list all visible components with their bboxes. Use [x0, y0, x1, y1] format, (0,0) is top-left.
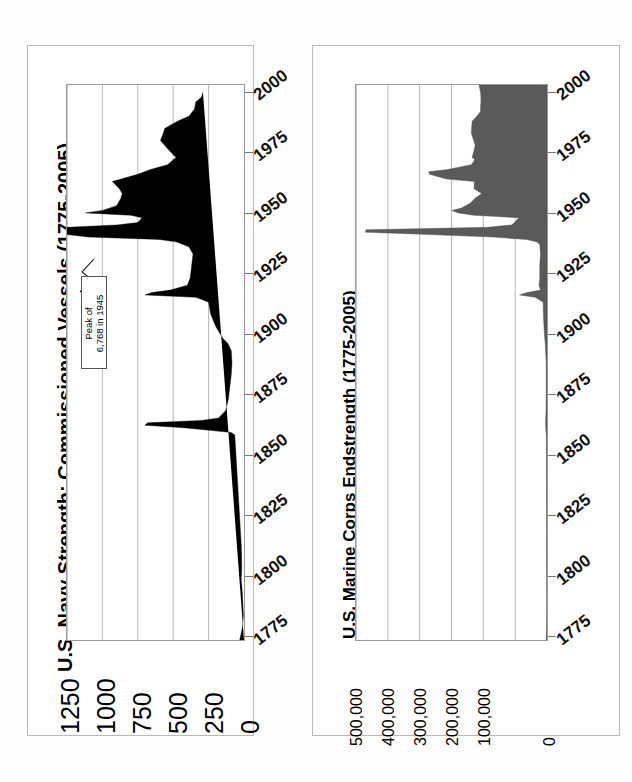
scanned-page: U.S. Navy Strength: Commissioned Vessels…: [0, 0, 632, 782]
value-label-400000: 400,000: [380, 688, 398, 746]
year-label-1800: 1800: [250, 551, 292, 590]
value-label-1250: 1250: [56, 678, 85, 734]
value-label-500: 500: [164, 692, 193, 734]
usmc-area-svg: [356, 85, 547, 640]
year-label-1825: 1825: [250, 490, 292, 529]
value-label-0: 0: [236, 720, 265, 734]
year-label-1775: 1775: [250, 611, 292, 650]
plot-area-usmc: [355, 84, 548, 641]
year-label-1975: 1975: [250, 127, 292, 166]
value-label-250: 250: [200, 692, 229, 734]
year-label-2000: 2000: [250, 66, 292, 105]
value-label-500000: 500,000: [348, 688, 366, 746]
value-label-200000: 200,000: [444, 688, 462, 746]
usmc-data-area: [366, 85, 547, 640]
value-label-300000: 300,000: [412, 688, 430, 746]
year-label-1925: 1925: [250, 248, 292, 287]
callout-line-2: 6,768 in 1945: [95, 295, 106, 353]
value-label-750: 750: [128, 692, 157, 734]
year-label-1950: 1950: [250, 188, 292, 227]
year-label-1900: 1900: [250, 309, 292, 348]
value-label-1000: 1000: [92, 678, 121, 734]
year-label-1875: 1875: [250, 369, 292, 408]
value-label-100000: 100,000: [476, 688, 494, 746]
value-label-0: 0: [541, 737, 559, 746]
annotation-callout-peak: Peak of 6,768 in 1945: [81, 276, 107, 369]
year-label-1850: 1850: [250, 430, 292, 469]
